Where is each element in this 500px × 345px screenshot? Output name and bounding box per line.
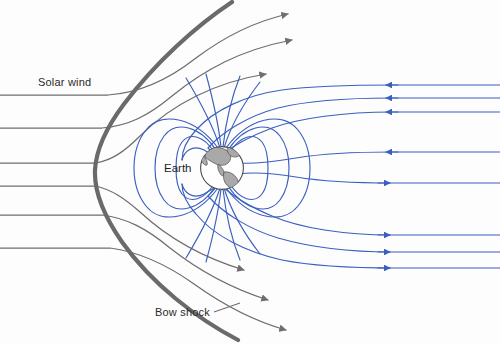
field-line-south-3 bbox=[208, 184, 500, 252]
magnetosphere-diagram: Solar wind Earth Bow shock bbox=[0, 0, 500, 345]
cusp-line-n-3 bbox=[223, 76, 240, 147]
solar-wind-line-6 bbox=[0, 248, 286, 330]
magnetosphere-illustration: Solar wind Earth Bow shock bbox=[0, 0, 500, 345]
cusp-line-n-4 bbox=[224, 82, 260, 148]
cusp-line-s-4 bbox=[224, 188, 260, 254]
solar-wind-streamlines bbox=[0, 14, 292, 330]
tail-arrowheads-north bbox=[386, 85, 398, 152]
tail-arrowheads-south bbox=[378, 183, 390, 268]
cusp-line-s-3 bbox=[223, 189, 240, 260]
earth-globe bbox=[201, 147, 244, 190]
field-line-north-3 bbox=[220, 112, 500, 156]
field-line-north-4 bbox=[238, 152, 500, 163]
field-line-south-1 bbox=[238, 173, 500, 183]
earth-label: Earth bbox=[164, 162, 192, 174]
solar-wind-label: Solar wind bbox=[38, 76, 91, 88]
bow-shock-label: Bow shock bbox=[155, 306, 210, 318]
